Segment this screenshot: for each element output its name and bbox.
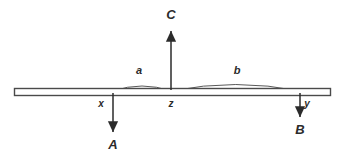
rigid-bar xyxy=(15,89,331,96)
point-label-z: z xyxy=(168,98,174,109)
span-label-a: a xyxy=(136,64,142,76)
force-label-a: A xyxy=(107,137,117,152)
span-label-b: b xyxy=(234,64,241,76)
point-label-y: y xyxy=(303,98,310,109)
free-body-diagram: C A B x z y a b xyxy=(0,0,339,165)
diagram-canvas: C A B x z y a b xyxy=(0,0,339,165)
point-label-x: x xyxy=(97,98,104,109)
force-label-c: C xyxy=(166,7,176,22)
force-label-b: B xyxy=(295,122,304,137)
